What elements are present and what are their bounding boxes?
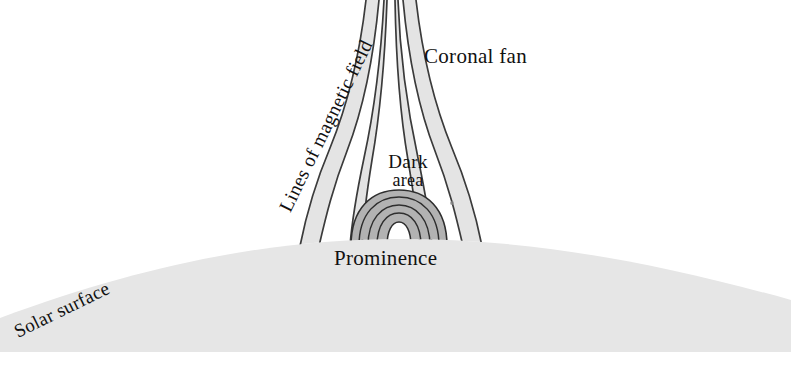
label-prominence: Prominence bbox=[334, 248, 437, 269]
label-dark-area: Darkarea bbox=[371, 152, 445, 189]
solar-prominence-diagram: Coronal fan Darkarea Prominence Lines of… bbox=[0, 0, 791, 368]
label-dark-area-line2: area bbox=[371, 171, 445, 189]
scan-speck bbox=[450, 201, 454, 205]
label-dark-area-line1: Dark bbox=[371, 152, 445, 171]
label-coronal-fan: Coronal fan bbox=[424, 46, 527, 67]
